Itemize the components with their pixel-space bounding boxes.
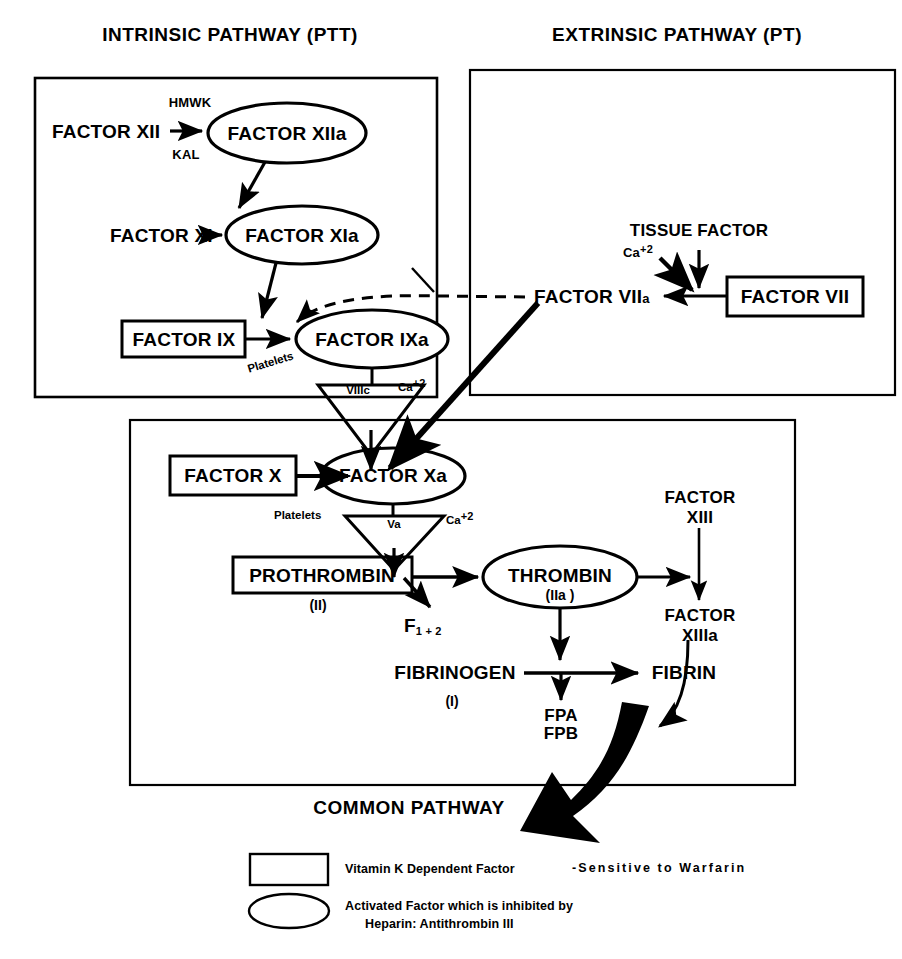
thrombin-label: THROMBIN — [508, 566, 612, 585]
thick-common-pathway-arrow — [520, 702, 649, 843]
factor-x-label: FACTOR X — [184, 466, 281, 485]
arrow-ca-to-viia — [660, 258, 692, 290]
hmwk-label: HMWK — [169, 96, 212, 109]
fpb-label: FPB — [544, 725, 579, 742]
factor-xiii-label-line2: XIII — [687, 509, 713, 526]
factor-xi-label: FACTOR XI — [110, 226, 213, 245]
fibrin-label: FIBRIN — [652, 663, 717, 682]
kal-label: KAL — [172, 148, 199, 161]
legend-ellipse-symbol — [249, 894, 329, 928]
factor-xiiia-label-line1: FACTOR — [665, 607, 736, 624]
f1plus2-label: F1 + 2 — [404, 616, 442, 637]
intrinsic-pathway-header: INTRINSIC PATHWAY (PTT) — [102, 25, 358, 44]
legend-rect-text: Vitamin K Dependent Factor — [345, 863, 515, 876]
legend-ellipse-text-line2: Heparin: Antithrombin III — [365, 918, 514, 931]
extrinsic-pathway-header: EXTRINSIC PATHWAY (PT) — [552, 25, 802, 44]
factor-xii-label: FACTOR XII — [52, 122, 160, 141]
factor-xia-label: FACTOR XIa — [245, 226, 359, 245]
factor-ixa-label: FACTOR IXa — [315, 330, 429, 349]
factor-xa-label: FACTOR Xa — [339, 466, 447, 485]
coagulation-cascade-diagram: INTRINSIC PATHWAY (PTT) EXTRINSIC PATHWA… — [0, 0, 902, 959]
arrow-xia-to-ix — [262, 263, 276, 318]
prothrombin-label: PROTHROMBIN — [249, 566, 395, 585]
fpa-label: FPA — [544, 707, 577, 724]
ca-extrinsic-label: Ca+2 — [623, 244, 653, 259]
factor-xiii-label-line1: FACTOR — [665, 489, 736, 506]
viiic-label: VIIIc — [346, 385, 370, 397]
platelets-x-label: Platelets — [274, 510, 321, 522]
factor-vii-label: FACTOR VII — [741, 287, 849, 306]
fibrinogen-numeral: (I) — [445, 694, 458, 708]
ca-x-label: Ca+2 — [446, 511, 473, 527]
arrow-xiia-to-xi — [239, 162, 265, 208]
factor-xiiia-label-line2: XIIIa — [682, 627, 718, 644]
arrow-xiiia-to-crosslink — [660, 640, 688, 726]
tick-mark-dashed — [412, 268, 434, 292]
factor-ix-label: FACTOR IX — [133, 330, 236, 349]
legend-warfarin-text: -Sensitive to Warfarin — [572, 862, 746, 875]
factor-xiia-label: FACTOR XIIa — [227, 124, 346, 143]
common-pathway-header: COMMON PATHWAY — [313, 798, 504, 817]
fibrinogen-label: FIBRINOGEN — [394, 663, 515, 682]
factor-viia-label: FACTOR VIIa — [534, 287, 650, 306]
ca-ix-label: Ca+2 — [398, 378, 425, 394]
prothrombin-numeral: (II) — [309, 598, 326, 612]
legend-rect-symbol — [250, 854, 328, 885]
tissue-factor-label: TISSUE FACTOR — [630, 222, 768, 239]
legend-ellipse-text-line1: Activated Factor which is inhibited by — [345, 900, 573, 913]
thrombin-numeral: (IIa ) — [546, 588, 575, 602]
va-label: Va — [387, 519, 400, 531]
